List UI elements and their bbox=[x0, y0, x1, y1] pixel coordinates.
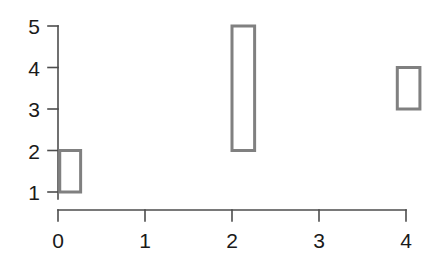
data-boxes-layer bbox=[60, 26, 420, 192]
x-tick-label-4: 4 bbox=[400, 229, 412, 252]
y-tick-label-1: 1 bbox=[28, 181, 40, 204]
x-tick-label-3: 3 bbox=[313, 229, 325, 252]
data-box-1 bbox=[60, 151, 81, 193]
x-tick-label-2: 2 bbox=[226, 229, 238, 252]
y-tick-label-4: 4 bbox=[28, 57, 40, 80]
y-tick-label-5: 5 bbox=[28, 15, 40, 38]
y-tick-label-3: 3 bbox=[28, 98, 40, 121]
x-tick-label-1: 1 bbox=[139, 229, 151, 252]
chart-plot-area: 5 4 3 2 1 0 1 2 3 4 bbox=[0, 0, 443, 261]
data-box-2 bbox=[232, 26, 255, 151]
x-tick-label-0: 0 bbox=[52, 229, 64, 252]
y-tick-label-2: 2 bbox=[28, 140, 40, 163]
chart-container: 5 4 3 2 1 0 1 2 3 4 bbox=[0, 0, 443, 261]
data-box-3 bbox=[397, 68, 420, 110]
